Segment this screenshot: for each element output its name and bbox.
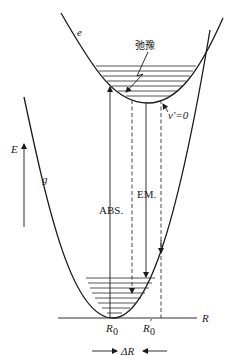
configuration-coordinate-diagram: e g 弛豫 v'=0 ABS. EM. E R R 0 R 0 ′ ΔR <box>0 0 228 356</box>
emission-label: EM. <box>137 188 157 200</box>
svg-text:0: 0 <box>113 326 118 337</box>
v-zero-label: v'=0 <box>168 109 189 121</box>
ground-state-curve <box>24 30 210 318</box>
absorption-label: ABS. <box>99 204 123 216</box>
svg-text:R: R <box>142 322 150 334</box>
relaxation-label: 弛豫 <box>135 39 155 51</box>
ground-curve-label: g <box>42 173 48 185</box>
delta-r-label: ΔR <box>120 345 134 356</box>
r0-prime-label: R 0 ′ <box>142 317 155 337</box>
svg-text:R: R <box>105 322 113 334</box>
ground-vibrational-levels <box>86 278 155 313</box>
energy-axis-label: E <box>10 143 18 155</box>
excited-curve-label: e <box>77 26 82 38</box>
distance-axis-label: R <box>201 312 209 324</box>
r0-label: R 0 <box>105 322 118 337</box>
svg-text:′: ′ <box>150 317 152 328</box>
excited-state-curve <box>61 13 223 103</box>
excited-vibrational-levels <box>96 66 196 96</box>
